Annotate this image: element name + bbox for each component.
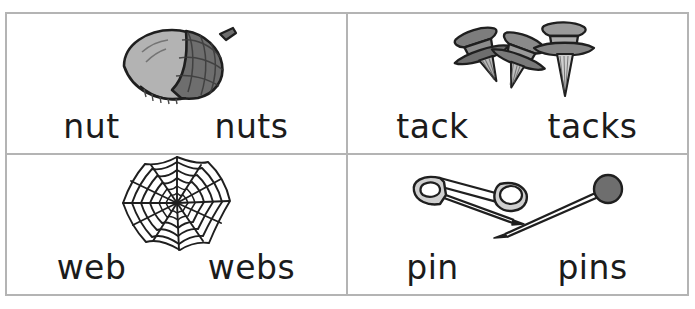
word-pair-web: web webs [7, 244, 346, 290]
grid-cell-web[interactable]: web webs [7, 155, 348, 296]
picture-word-grid: nut nuts [5, 12, 689, 296]
acorn-icon [7, 16, 346, 108]
word-pair-pin: pin pins [348, 244, 687, 290]
word-singular: nut [17, 110, 167, 143]
spider-web-icon [7, 157, 346, 249]
word-pair-tack: tack tacks [348, 103, 687, 149]
word-plural: tacks [508, 110, 678, 143]
word-singular: pin [358, 251, 508, 284]
grid-cell-tack[interactable]: tack tacks [348, 14, 689, 155]
pins-icon [348, 157, 687, 249]
word-plural: webs [167, 251, 337, 284]
word-singular: web [17, 251, 167, 284]
word-plural: nuts [167, 110, 337, 143]
grid-cell-nut[interactable]: nut nuts [7, 14, 348, 155]
word-plural: pins [508, 251, 678, 284]
word-pair-nut: nut nuts [7, 103, 346, 149]
grid-cell-pin[interactable]: pin pins [348, 155, 689, 296]
thumbtacks-icon [348, 16, 687, 108]
word-singular: tack [358, 110, 508, 143]
